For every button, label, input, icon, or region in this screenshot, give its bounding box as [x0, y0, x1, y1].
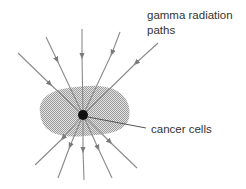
- cancer-cells-label: cancer cells: [151, 123, 212, 135]
- radiation-label-line2: paths: [147, 24, 175, 36]
- gamma-rays: [18, 29, 158, 180]
- ray-2-in: [46, 37, 57, 60]
- cancer-cells-dot: [78, 110, 88, 120]
- radiotherapy-diagram: gamma radiation paths cancer cells: [0, 0, 246, 189]
- ray-5-in: [136, 43, 158, 63]
- ray-4-in: [112, 32, 120, 53]
- radiation-label-line1: gamma radiation: [147, 9, 233, 21]
- ray-1-in: [18, 53, 50, 84]
